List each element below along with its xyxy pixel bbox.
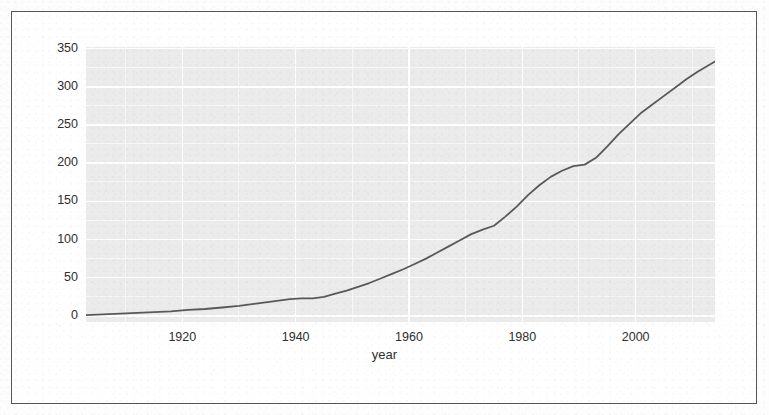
x-tick-label: 2000 xyxy=(606,330,666,344)
y-tick-label: 0 xyxy=(34,308,78,322)
y-tick-label: 200 xyxy=(34,155,78,169)
y-tick-label: 150 xyxy=(34,193,78,207)
y-tick-label: 350 xyxy=(34,41,78,55)
x-tick-label: 1960 xyxy=(379,330,439,344)
chart-figure: 050100150200250300350 192019401960198020… xyxy=(0,0,769,415)
x-axis-title: year xyxy=(0,347,769,362)
x-tick-label: 1940 xyxy=(266,330,326,344)
y-tick-label: 250 xyxy=(34,117,78,131)
screenshot-root: 050100150200250300350 192019401960198020… xyxy=(0,0,769,415)
x-tick-label: 1980 xyxy=(492,330,552,344)
y-tick-label: 300 xyxy=(34,79,78,93)
data-series-line xyxy=(86,47,715,322)
y-tick-label: 50 xyxy=(34,270,78,284)
y-tick-label: 100 xyxy=(34,232,78,246)
plot-panel xyxy=(86,47,715,322)
x-tick-label: 1920 xyxy=(152,330,212,344)
